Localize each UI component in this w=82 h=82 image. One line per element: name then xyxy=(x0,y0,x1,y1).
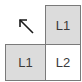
cell-label: L1 xyxy=(56,18,70,33)
arrow-up-left-icon xyxy=(16,16,36,36)
cell-bottom-right: L2 xyxy=(45,44,81,81)
cell-top-right: L1 xyxy=(45,5,81,45)
cell-label: L1 xyxy=(18,55,32,70)
cell-label: L2 xyxy=(56,55,70,70)
cell-bottom-left: L1 xyxy=(5,44,46,81)
